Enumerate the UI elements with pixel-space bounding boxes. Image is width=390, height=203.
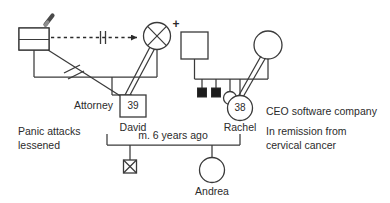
left-father-square <box>19 28 49 50</box>
left-fused-relationship <box>125 47 155 95</box>
rachel-occupation: CEO software company <box>266 105 378 117</box>
marriage-label: m. 6 years ago <box>138 129 208 141</box>
substance-use-icon <box>46 16 53 25</box>
rachel-note-line1: In remission from <box>266 125 347 137</box>
right-sibling-1-deceased <box>198 88 207 97</box>
david-age: 39 <box>127 100 139 111</box>
david-occupation: Attorney <box>74 99 114 111</box>
left-mother-circle-deceased: + <box>144 17 180 49</box>
david-note-line2: lessened <box>18 139 60 151</box>
rachel-note-line2: cervical cancer <box>266 139 337 151</box>
andrea-name: Andrea <box>195 185 229 197</box>
right-mother-circle <box>254 31 282 59</box>
deceased-child-node <box>124 160 137 173</box>
david-node: 39 <box>120 95 146 117</box>
right-sibling-2-deceased <box>212 88 221 97</box>
rachel-age: 38 <box>234 102 246 113</box>
genogram-container: + 39 Attorney David <box>0 0 390 203</box>
rachel-name: Rachel <box>224 121 257 133</box>
rachel-node: 38 <box>228 96 253 121</box>
left-divorce-diagonal <box>48 50 122 97</box>
david-note-line1: Panic attacks <box>18 125 80 137</box>
andrea-node <box>200 158 225 183</box>
cutoff-arrow <box>51 31 137 44</box>
children-drops <box>130 145 212 160</box>
genogram-canvas: + 39 Attorney David <box>0 0 390 203</box>
plus-sign: + <box>172 17 179 31</box>
left-family-bracket <box>34 50 157 78</box>
right-father-square <box>181 32 208 59</box>
